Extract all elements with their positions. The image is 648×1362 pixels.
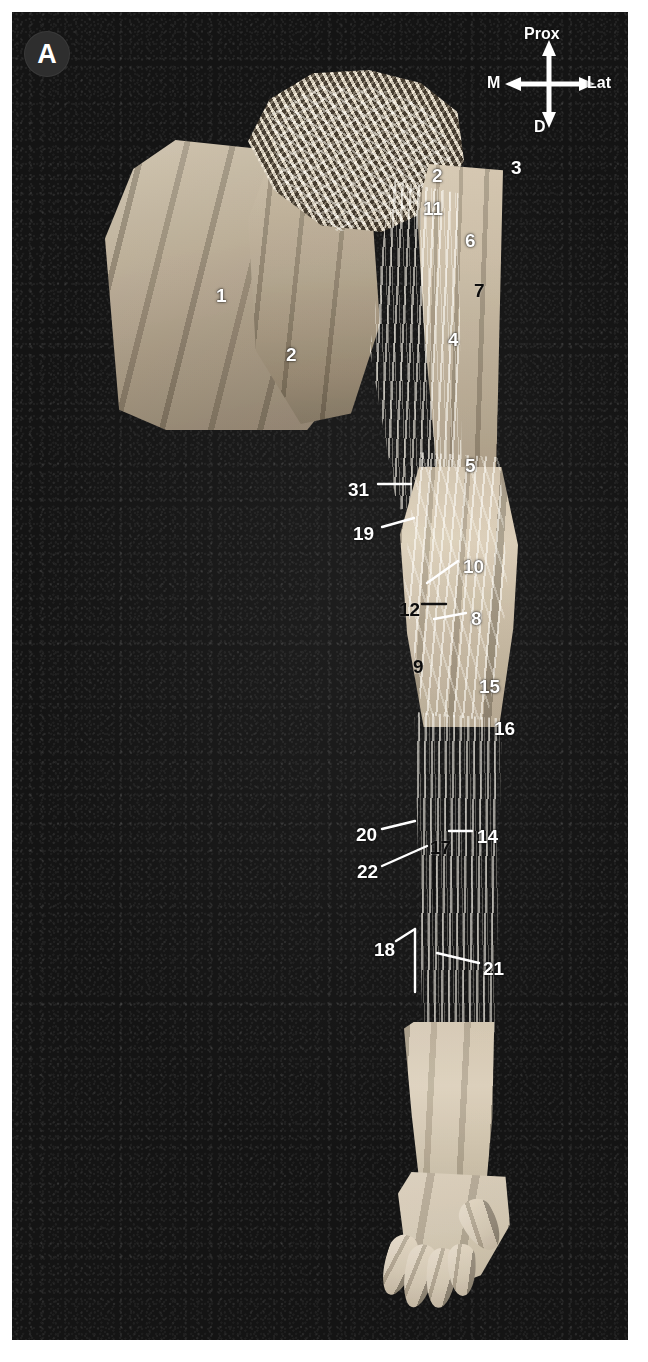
callout-10: 10	[463, 557, 484, 576]
compass-label-proximal: Prox	[524, 26, 560, 42]
compass-label-medial: M	[487, 75, 500, 91]
callout-2a: 2	[286, 345, 297, 364]
orientation-compass: Prox M Lat D	[487, 26, 627, 138]
callout-1: 1	[216, 286, 227, 305]
wrist-specimen	[404, 1022, 500, 1182]
callout-16: 16	[494, 719, 515, 738]
callout-31: 31	[348, 480, 369, 499]
callout-3: 3	[511, 158, 522, 177]
callout-15: 15	[479, 677, 500, 696]
callout-19: 19	[353, 524, 374, 543]
compass-label-distal: D	[534, 119, 546, 135]
callout-8: 8	[471, 609, 482, 628]
anatomy-plate: A Prox M Lat D 1223116745311910128915162…	[0, 0, 648, 1362]
panel-letter-badge: A	[24, 31, 70, 77]
callout-11: 11	[423, 199, 443, 218]
callout-17: 17	[430, 838, 451, 857]
compass-label-lateral: Lat	[587, 75, 611, 91]
callout-20: 20	[356, 825, 377, 844]
callout-14: 14	[477, 827, 498, 846]
callout-4: 4	[448, 330, 459, 349]
callout-22: 22	[357, 862, 378, 881]
callout-9: 9	[413, 657, 424, 676]
dissection-photograph	[12, 12, 628, 1340]
callout-7: 7	[474, 281, 485, 300]
callout-12: 12	[399, 600, 420, 619]
callout-18: 18	[374, 940, 395, 959]
callout-6: 6	[465, 231, 476, 250]
callout-21: 21	[483, 959, 504, 978]
callout-2b: 2	[432, 166, 443, 185]
callout-5: 5	[465, 456, 476, 475]
